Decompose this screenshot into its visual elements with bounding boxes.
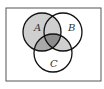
venn-diagram: A B C: [0, 0, 104, 89]
label-b: B: [67, 22, 75, 33]
label-c: C: [50, 58, 58, 69]
label-a: A: [33, 22, 41, 33]
